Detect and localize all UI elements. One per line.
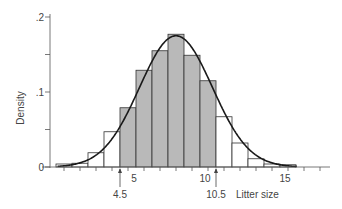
x-tick-label: 15	[279, 173, 291, 184]
histogram-bar	[136, 70, 152, 167]
histogram-bar	[184, 55, 200, 167]
histogram-bar	[104, 132, 120, 167]
x-tick-label: 5	[131, 173, 137, 184]
boundary-annotation: 4.5	[113, 189, 127, 200]
histogram-bar	[152, 51, 168, 167]
histogram-bar	[248, 159, 264, 167]
histogram-chart: 0.1.2510154.510.5 Density Litter size	[0, 0, 342, 209]
histogram-bar	[216, 117, 232, 167]
histogram-bar	[200, 81, 216, 167]
x-tick-label: 10	[199, 173, 211, 184]
y-tick-label: 0	[38, 162, 44, 173]
y-axis-label: Density	[15, 91, 26, 124]
boundary-annotation: 10.5	[206, 189, 226, 200]
histogram-bar	[120, 108, 136, 167]
y-tick-label: .1	[36, 87, 45, 98]
x-axis-label: Litter size	[236, 189, 279, 200]
y-tick-label: .2	[36, 12, 45, 23]
histogram-bar	[168, 34, 184, 167]
histogram-bars	[56, 34, 296, 167]
